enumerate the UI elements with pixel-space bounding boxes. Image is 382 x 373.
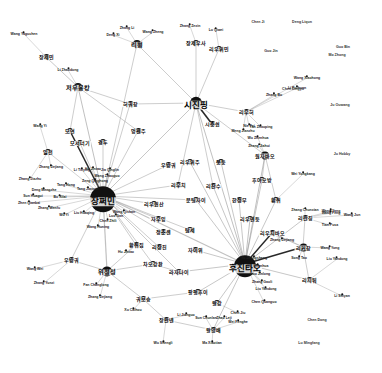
graph-leaf-node[interactable]: Tian Pusa [322, 222, 338, 228]
graph-leaf-node[interactable]: Jia Qinglin [101, 167, 119, 173]
graph-node-zhang_wannian[interactable]: 장완녠 [158, 317, 175, 323]
graph-leaf-node[interactable]: Zhang Jiazhu [19, 176, 41, 182]
graph-leaf-node[interactable]: Lu Qiwei [209, 27, 224, 33]
graph-leaf-node[interactable]: Wu Zhenhua [248, 135, 269, 141]
graph-leaf-node[interactable]: Zhang Li [120, 25, 135, 31]
graph-isolated-node[interactable]: Deng Liqun [292, 21, 312, 25]
graph-node-han_zhengbu[interactable]: 한정부 [231, 197, 248, 203]
graph-isolated-node[interactable]: Lu Mingfang [298, 342, 319, 346]
graph-leaf-node[interactable]: Wu Yi [59, 212, 68, 218]
graph-node-ja_uyang[interactable]: 자우잉 [150, 216, 167, 222]
graph-node-dang_se[interactable]: 탐세 [184, 227, 196, 233]
graph-node-lajanai[interactable]: 라자나이 [168, 269, 190, 275]
graph-node-li_peng[interactable]: 리펑 [130, 40, 144, 48]
graph-leaf-node[interactable]: Hu Jintao [118, 249, 134, 255]
graph-leaf-node[interactable]: Liu Yandong [256, 286, 277, 292]
graph-leaf-node[interactable]: Chen Zhili [100, 218, 117, 224]
graph-node-wang_yangbae[interactable]: 왕양배 [205, 327, 222, 333]
graph-leaf-node[interactable]: Chen Quanguo [251, 299, 276, 305]
graph-leaf-node[interactable]: Wang Qishan [113, 209, 135, 215]
graph-leaf-node[interactable]: Deng Mengzhe [32, 187, 57, 193]
graph-leaf-node[interactable]: Zhang Zexin [180, 23, 201, 29]
graph-node-liu_yuzhou[interactable]: 리우위주 [179, 159, 201, 165]
graph-isolated-node[interactable]: Guo Bin [336, 46, 350, 50]
graph-leaf-node[interactable]: Wang Huning [87, 224, 109, 230]
graph-leaf-node[interactable]: Zhang Dejiang [270, 237, 294, 243]
graph-leaf-node[interactable]: Liu Huaqing [74, 210, 94, 216]
graph-node-liu_yumin[interactable]: 리우위민 [208, 46, 230, 52]
graph-leaf-node[interactable]: Hu Chunhua [248, 263, 269, 269]
graph-leaf-node[interactable]: Ma Xiaotian [202, 340, 221, 346]
graph-leaf-node[interactable]: Zeng Qinghong [82, 178, 108, 184]
graph-leaf-node[interactable]: Guo Jinlong [250, 271, 270, 277]
graph-leaf-node[interactable]: Song Tao [291, 255, 307, 261]
graph-leaf-node[interactable]: Xu Caihou [124, 307, 141, 313]
graph-isolated-node[interactable]: Mo Zhong [328, 54, 345, 58]
graph-node-ja_ieo[interactable]: 자이위 [187, 247, 204, 253]
graph-leaf-node[interactable]: Sun Chunlan [195, 315, 217, 321]
graph-node-fang_fenghui[interactable]: 팡펑후이 [187, 289, 209, 295]
graph-leaf-node[interactable]: Zhang Gaoli [252, 279, 272, 285]
graph-isolated-node[interactable]: Ju Hobby [334, 153, 350, 157]
graph-node-hu_yaobang[interactable]: 후야오방 [251, 177, 273, 183]
graph-node-wen_tingjai[interactable]: 문팅자이 [185, 197, 207, 203]
graph-leaf-node[interactable]: Wang Yi [33, 123, 46, 129]
graph-leaf-node[interactable]: Li Shiyan [334, 293, 350, 299]
graph-leaf-node[interactable]: Zhang Jiahui [248, 143, 270, 149]
graph-node-li_keqiang[interactable]: 리커창 [295, 244, 312, 251]
graph-node-liu_yunshan_l[interactable]: 리우윈산 [143, 201, 165, 207]
graph-leaf-node[interactable]: Zhang Wenfu [38, 205, 60, 211]
graph-leaf-node[interactable]: Deng Xi [106, 32, 119, 38]
graph-leaf-node[interactable]: Zhen Qianbai [18, 200, 40, 206]
graph-leaf-node[interactable]: Li Jianguo [177, 312, 195, 318]
graph-leaf-node[interactable]: Wang Feng [322, 210, 341, 216]
graph-isolated-node[interactable]: Chen Ji [252, 21, 265, 25]
graph-node-moyeon[interactable]: 모연 [64, 128, 76, 134]
graph-node-wu_bangguo_c[interactable]: 우방궈 [160, 162, 177, 168]
graph-node-xi_zhongxun[interactable]: 시중쉰 [204, 121, 221, 127]
graph-node-moseoneogi[interactable]: 모서너기 [69, 140, 91, 146]
graph-node-zhou_yongkang[interactable]: 저우융캉 [65, 83, 91, 91]
graph-leaf-node[interactable]: Bo Xilai [54, 194, 67, 200]
graph-node-guo_boxiong[interactable]: 궈보슝 [135, 296, 152, 302]
graph-node-xi_jinping[interactable]: 시진핑 [183, 97, 209, 110]
graph-node-gyeongdu[interactable]: 경두 [97, 139, 109, 145]
graph-node-li_jangchin[interactable]: 리장친 [151, 244, 168, 250]
graph-node-huang_ju_r[interactable]: 황쥐 [270, 197, 282, 203]
graph-node-wang_gang[interactable]: 왕강 [211, 300, 223, 306]
graph-leaf-node[interactable]: Zhang Chunxian [291, 207, 318, 213]
graph-node-jao_gangchuan[interactable]: 차오강촨 [142, 261, 164, 267]
graph-node-liu_qi[interactable]: 리우치 [170, 182, 187, 188]
graph-leaf-node[interactable]: Wang Zheng [143, 29, 164, 35]
graph-leaf-node[interactable]: Zhang Dejiang [88, 294, 112, 300]
graph-node-yu_zhengsheng[interactable]: 위정성 [97, 266, 117, 275]
graph-node-jong_dong[interactable]: 쭝둥 [215, 159, 227, 165]
graph-node-liu_yandong[interactable]: 리우옌둥 [239, 216, 261, 222]
graph-node-il_cheon[interactable]: 일천 [42, 149, 54, 155]
graph-node-wen_jiabao[interactable]: 원자바오 [254, 152, 276, 159]
graph-leaf-node[interactable]: Zhang Bo [266, 92, 282, 98]
graph-leaf-node[interactable]: Yan Zhaoping [250, 124, 273, 130]
graph-leaf-node[interactable]: Zhao Leji [216, 315, 231, 321]
graph-node-zhang_jiemin[interactable]: 장제민 [38, 54, 55, 60]
graph-leaf-node[interactable]: Li Zhaodong [58, 67, 79, 73]
graph-leaf-node[interactable]: Sun Huagui [23, 193, 42, 199]
graph-node-liu_qibao[interactable]: 리우치바오 [259, 230, 286, 236]
graph-leaf-node[interactable]: Li Tieying [74, 167, 90, 173]
graph-node-jang_jeo_usa[interactable]: 장제우사 [185, 40, 207, 46]
graph-node-heo_gwochang[interactable]: 허궈창 [122, 101, 139, 107]
graph-leaf-node[interactable]: Fan Changlong [83, 282, 108, 288]
graph-node-jeong_chunsaeng[interactable]: 정춘셴 [155, 229, 172, 235]
graph-isolated-node[interactable]: Chen Lingyu [282, 88, 304, 92]
graph-leaf-node[interactable]: Yu Zhengsheng [241, 255, 267, 261]
graph-node-meng_jianzhu[interactable]: 멍젠주 [130, 128, 147, 134]
graph-node-huang_ju_jip[interactable]: 황쥐집 [128, 242, 145, 248]
graph-isolated-node[interactable]: Guo Jin [264, 50, 277, 54]
graph-node-li_zhanshu[interactable]: 리잔수 [205, 183, 222, 189]
graph-leaf-node[interactable]: Zhang Yunzi [34, 280, 55, 286]
graph-leaf-node[interactable]: Wang Xiaohong [294, 75, 320, 81]
graph-leaf-node[interactable]: Wang Jun [344, 212, 361, 218]
graph-leaf-node[interactable]: Chen Jiu [231, 310, 246, 316]
graph-node-liu_yunhe[interactable]: 리우허 [238, 109, 255, 115]
graph-node-li_jitao[interactable]: 리지퉈 [301, 277, 318, 283]
